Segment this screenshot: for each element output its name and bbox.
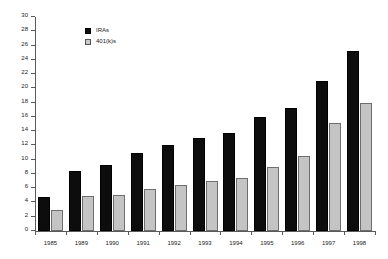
y-tick-label: 20 <box>21 83 28 90</box>
bar-iras <box>162 145 174 231</box>
y-tick-label: 12 <box>21 140 28 147</box>
bar-chart: 024681012141618202224262830 198519891990… <box>0 0 388 259</box>
x-tick-mark <box>35 231 36 235</box>
x-tick-label: 1989 <box>65 240 97 247</box>
bar-iras <box>131 153 143 231</box>
x-tick-mark <box>282 231 283 235</box>
legend-label-iras: IRAs <box>96 27 109 34</box>
x-tick-label: 1993 <box>189 240 221 247</box>
x-tick-mark <box>159 231 160 235</box>
y-tick-label: 4 <box>25 197 28 204</box>
bar-iras <box>347 51 359 231</box>
x-tick-mark <box>97 231 98 235</box>
bar-401ks <box>329 123 341 231</box>
y-tick-label: 14 <box>21 126 28 133</box>
x-tick-label: 1991 <box>127 240 159 247</box>
bar-iras <box>285 108 297 231</box>
y-tick-label: 18 <box>21 98 28 105</box>
bar-iras <box>254 117 266 231</box>
bar-401ks <box>51 210 63 231</box>
bar-401ks <box>267 167 279 231</box>
bar-401ks <box>144 189 156 231</box>
x-tick-label: 1990 <box>96 240 128 247</box>
bar-iras <box>193 138 205 231</box>
bar-401ks <box>298 156 310 231</box>
x-tick-mark <box>220 231 221 235</box>
bar-iras <box>38 197 50 231</box>
y-tick-label: 2 <box>25 212 28 219</box>
x-tick-label: 1996 <box>282 240 314 247</box>
x-tick-label: 1997 <box>313 240 345 247</box>
y-tick-label: 6 <box>25 183 28 190</box>
y-tick-label: 28 <box>21 26 28 33</box>
bar-401ks <box>175 185 187 231</box>
bar-iras <box>316 81 328 231</box>
bar-iras <box>100 165 112 231</box>
x-tick-mark <box>344 231 345 235</box>
plot-area <box>35 17 375 231</box>
x-tick-mark <box>66 231 67 235</box>
x-tick-mark <box>190 231 191 235</box>
bar-401ks <box>206 181 218 231</box>
x-axis-line <box>35 231 376 232</box>
bar-401ks <box>113 195 125 231</box>
y-tick-label: 8 <box>25 169 28 176</box>
x-tick-label: 1994 <box>220 240 252 247</box>
y-tick-label: 30 <box>21 12 28 19</box>
bar-401ks <box>360 103 372 231</box>
legend-item-iras: IRAs <box>85 25 116 36</box>
x-tick-label: 1998 <box>344 240 376 247</box>
x-tick-mark <box>313 231 314 235</box>
y-tick-label: 0 <box>25 226 28 233</box>
x-tick-label: 1985 <box>34 240 66 247</box>
bar-iras <box>223 133 235 231</box>
bar-401ks <box>236 178 248 232</box>
legend-swatch-401ks-icon <box>85 39 91 45</box>
legend-label-401ks: 401(k)s <box>96 38 116 45</box>
y-tick-label: 22 <box>21 69 28 76</box>
legend-swatch-iras-icon <box>85 28 91 34</box>
x-tick-label: 1995 <box>251 240 283 247</box>
y-tick-label: 24 <box>21 55 28 62</box>
y-tick-label: 26 <box>21 41 28 48</box>
bar-iras <box>69 171 81 231</box>
bar-401ks <box>82 196 94 231</box>
y-tick-label: 16 <box>21 112 28 119</box>
x-tick-label: 1992 <box>158 240 190 247</box>
legend-item-401ks: 401(k)s <box>85 36 116 47</box>
chart-legend: IRAs 401(k)s <box>85 25 116 47</box>
x-tick-mark <box>375 231 376 235</box>
y-tick-label: 10 <box>21 155 28 162</box>
x-tick-mark <box>251 231 252 235</box>
x-tick-mark <box>128 231 129 235</box>
